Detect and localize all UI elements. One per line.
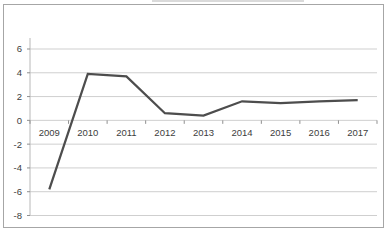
- x-axis-tick-label: 2014: [231, 127, 252, 138]
- y-axis-tick-label: 2: [17, 91, 22, 102]
- y-axis-tick-label: 0: [17, 115, 22, 126]
- y-axis-tick-label: -8: [14, 210, 22, 221]
- chart-container: 6420-2-4-6-82009201020112012201320142015…: [0, 0, 387, 233]
- x-axis-tick-label: 2012: [154, 127, 175, 138]
- x-axis-tick-label: 2015: [270, 127, 291, 138]
- y-axis-tick-label: 4: [17, 67, 22, 78]
- y-axis-tick-label: -4: [14, 162, 22, 173]
- y-axis-tick-label: -2: [14, 139, 22, 150]
- y-axis-tick-label: -6: [14, 186, 22, 197]
- y-axis-tick-label: 6: [17, 43, 22, 54]
- x-axis-tick-label: 2017: [347, 127, 368, 138]
- x-axis-tick-label: 2013: [193, 127, 214, 138]
- x-axis-tick-label: 2010: [77, 127, 98, 138]
- x-axis-tick-label: 2009: [39, 127, 60, 138]
- x-axis-tick-label: 2016: [309, 127, 330, 138]
- x-axis-tick-label: 2011: [116, 127, 136, 138]
- line-chart-svg: 6420-2-4-6-82009201020112012201320142015…: [0, 0, 387, 233]
